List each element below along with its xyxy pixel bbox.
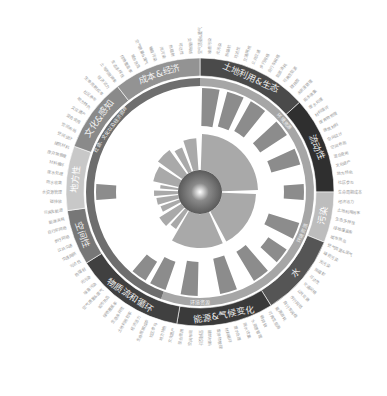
indicator-label: 文化遗产 — [167, 327, 176, 344]
indicator-label: 建筑材料 — [53, 139, 70, 150]
indicator-label: 社区参与 — [337, 178, 353, 185]
indicator-label: 混合使用 — [332, 149, 349, 159]
indicator-label: 热辐射 — [168, 44, 176, 57]
indicator-label: 生命周期成本 — [338, 189, 362, 195]
indicator-label: 雨水收集 — [242, 322, 253, 339]
indicator-label: 可达性 — [308, 273, 321, 285]
indicator-label: 废弃物管理 — [216, 328, 225, 349]
indicator-label: 空间设计 — [198, 330, 204, 346]
indicator-label: 可达性 — [68, 258, 81, 269]
indicator-label: 废弃物管理 — [47, 148, 68, 159]
indicator-label: 光污染 — [215, 43, 223, 56]
indicator-label: 材料循环 — [48, 159, 65, 168]
indicator-label: 空气质量&废气 — [197, 27, 203, 54]
indicator-label: 空间布局 — [186, 329, 193, 345]
indicator-label: 碳排放 — [50, 198, 62, 205]
indicator-label: 步行网络 — [53, 233, 70, 244]
indicator-bar — [96, 184, 116, 200]
indicator-label: 城市热岛 — [330, 233, 347, 244]
indicator-label: 热辐射 — [223, 44, 231, 57]
resource-label: 环境资源 — [190, 299, 210, 306]
indicator-label: 空间设计 — [326, 130, 343, 142]
indicator-label: 光污染 — [159, 46, 168, 59]
indicator-label: 地方特色 — [336, 168, 353, 176]
indicator-label: 建筑材料 — [207, 329, 214, 345]
indicator-label: 社区参与 — [147, 322, 158, 339]
indicator-label: 可达性 — [232, 46, 241, 59]
indicator-label: 材料循环 — [224, 327, 233, 344]
indicator-label: 光污染 — [79, 273, 92, 285]
indicator-label: 混合使用 — [176, 328, 184, 345]
indicator-label: 碳排放 — [288, 77, 300, 90]
indicator-label: 公共交通 — [250, 48, 262, 65]
indicator-label: 碳排放 — [259, 314, 270, 327]
indicator-label: 可达性 — [178, 43, 186, 56]
indicator-label: 地方特色 — [157, 324, 167, 341]
indicator-label: 噪音污染 — [148, 45, 159, 62]
indicator-label: 文化遗产 — [335, 159, 352, 168]
indicator-label: 经济活力 — [338, 198, 354, 205]
indicator-label: 公共交通 — [56, 242, 73, 254]
indicator-label: 土地利用效率 — [336, 207, 361, 216]
indicator-label: 废水处理 — [233, 324, 243, 341]
indicator-label: 交通网络 — [187, 38, 194, 54]
indicator-bar — [284, 184, 304, 200]
indicator-label: 光污染 — [318, 258, 331, 269]
indicator-label: 噪音污染 — [206, 38, 213, 54]
indicator-label: 空间设计 — [57, 130, 74, 142]
center-sphere — [178, 170, 222, 214]
indicator-label: 能源消耗 — [48, 215, 65, 224]
indicator-label: 可再生能源 — [43, 207, 64, 216]
indicator-label: 热辐射 — [73, 266, 86, 278]
indicator-label: 废水处理 — [47, 168, 64, 176]
indicator-label: 绿地覆盖率 — [333, 224, 354, 235]
indicator-label: 热辐射 — [313, 266, 326, 278]
radial-chart: 空气质量&废气噪音污染光污染热辐射可达性交通网络公共交通步行网络自行车网络能源消… — [0, 0, 387, 396]
indicator-label: 水资源管理 — [42, 189, 62, 195]
indicator-label: 生态多样性 — [335, 215, 356, 225]
indicator-label: 空间布局 — [330, 139, 347, 150]
indicator-label: 雨水收集 — [46, 178, 62, 185]
indicator-label: 自行车网络 — [46, 224, 67, 235]
indicator-label: 交通网络 — [241, 45, 252, 62]
